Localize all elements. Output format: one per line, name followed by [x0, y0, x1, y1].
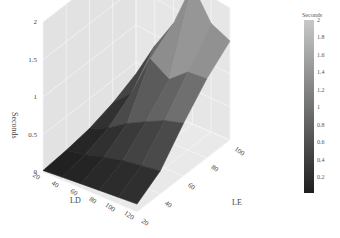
y-tick-label: 60: [186, 181, 197, 192]
colorbar-tick-label: 1.6: [317, 52, 325, 58]
colorbar-tick-label: 2: [317, 17, 320, 23]
colorbar-tick-label: 0.6: [317, 139, 325, 145]
x-tick-label: 40: [50, 179, 61, 190]
z-tick-label: 0.5: [28, 131, 37, 139]
z-tick-label: 2: [34, 18, 38, 26]
x-tick-label: 80: [88, 195, 99, 206]
x-axis-title: LD: [70, 196, 81, 205]
colorbar: Seconds 21.81.61.41.210.80.60.40.2: [302, 12, 325, 193]
colorbar-tick-label: 1.8: [317, 34, 325, 40]
colorbar-tick-label: 1: [317, 104, 320, 110]
colorbar-tick-label: 0.4: [317, 157, 325, 163]
y-tick-label: 100: [233, 145, 247, 158]
colorbar-gradient: [304, 20, 314, 193]
colorbar-tick-label: 1.4: [317, 69, 325, 75]
y-tick-label: 40: [163, 199, 174, 210]
y-axis-title: LE: [232, 198, 242, 207]
colorbar-tick-label: 0.2: [317, 174, 325, 180]
y-tick-label: 80: [210, 163, 221, 174]
z-tick-label: 1: [34, 93, 38, 101]
z-tick-label: 1.5: [28, 56, 37, 64]
surface-plot[interactable]: 00.511.522040608010012020406080100 Secon…: [0, 0, 340, 238]
colorbar-tick-label: 1.2: [317, 87, 325, 93]
colorbar-tick-label: 0.8: [317, 122, 325, 128]
y-tick-label: 20: [140, 217, 151, 228]
z-axis-title: Seconds: [10, 112, 19, 139]
